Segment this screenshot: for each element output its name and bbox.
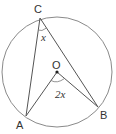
label-B: B	[100, 109, 107, 121]
angle-label-x: x	[40, 31, 46, 43]
label-O: O	[52, 59, 61, 71]
angle-label-2x: 2x	[55, 88, 66, 100]
angle-arc-O	[51, 79, 65, 82]
radius-OA	[26, 72, 57, 116]
chord-CA	[26, 18, 40, 116]
label-C: C	[34, 3, 42, 15]
chord-CB	[40, 18, 98, 107]
label-A: A	[16, 119, 24, 131]
circle-theorem-diagram: C O A B x 2x	[0, 0, 116, 134]
